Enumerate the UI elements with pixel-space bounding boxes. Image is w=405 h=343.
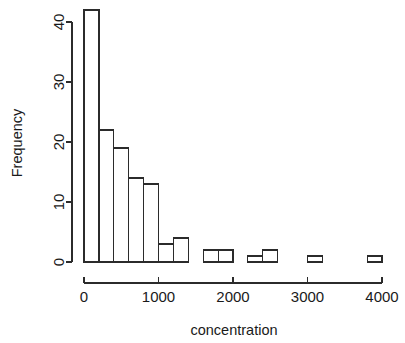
x-tick-label: 2000: [216, 288, 249, 305]
x-tick-label: 3000: [291, 288, 324, 305]
y-tick-label: 10: [50, 194, 67, 211]
histogram-bar: [218, 250, 233, 262]
histogram-bar: [84, 10, 99, 262]
histogram-bar: [129, 178, 144, 262]
histogram-bar: [203, 250, 218, 262]
y-tick-labels: 010203040: [50, 14, 67, 267]
x-tick-label: 0: [80, 288, 88, 305]
x-axis-title: concentration: [190, 322, 277, 338]
histogram-bar: [367, 256, 382, 262]
x-axis: [84, 277, 382, 283]
histogram-bar: [248, 256, 263, 262]
y-axis-title: Frequency: [9, 108, 25, 177]
histogram-bar: [263, 250, 278, 262]
histogram-bar: [159, 244, 174, 262]
x-tick-label: 1000: [142, 288, 175, 305]
y-tick-label: 20: [50, 134, 67, 151]
x-tick-labels: 01000200030004000: [80, 288, 399, 305]
histogram-bar: [114, 148, 129, 262]
x-tick-label: 4000: [365, 288, 398, 305]
histogram-bar: [99, 130, 114, 262]
y-tick-label: 30: [50, 74, 67, 91]
histogram-bar: [308, 256, 323, 262]
histogram-figure: 010203040 01000200030004000 Frequency co…: [0, 0, 405, 343]
y-tick-label: 0: [50, 258, 67, 266]
histogram-plot-area: 010203040 01000200030004000 Frequency co…: [0, 0, 405, 343]
y-tick-label: 40: [50, 14, 67, 31]
bars-group: [84, 10, 382, 262]
histogram-bar: [144, 184, 159, 262]
histogram-bar: [173, 238, 188, 262]
